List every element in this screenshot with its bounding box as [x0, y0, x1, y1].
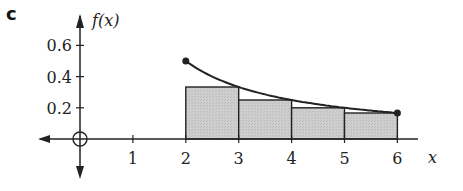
riemann-rectangle — [345, 113, 398, 139]
x-ticks: 123456 — [128, 135, 403, 168]
x-axis-arrow-left-icon — [38, 135, 50, 143]
part-label: c — [6, 3, 17, 24]
curve-endpoint-left — [182, 58, 189, 65]
y-axis-arrow-up-icon — [76, 14, 84, 28]
y-axis-arrow-down-icon — [76, 166, 84, 179]
riemann-rectangle — [186, 87, 239, 139]
chart-figure: c 123456 0.20.40.6 f(x) x — [0, 0, 463, 191]
y-tick-label: 0.6 — [47, 36, 72, 55]
x-axis-label: x — [428, 148, 437, 167]
riemann-rectangle — [292, 108, 345, 139]
x-tick-label: 5 — [339, 149, 349, 168]
x-tick-label: 2 — [181, 149, 191, 168]
x-tick-label: 4 — [287, 149, 297, 168]
riemann-rectangle — [239, 100, 292, 139]
curve-endpoint-right — [394, 109, 401, 116]
x-tick-label: 6 — [392, 149, 402, 168]
y-tick-label: 0.4 — [47, 68, 72, 87]
x-tick-label: 1 — [128, 149, 138, 168]
riemann-rectangles — [186, 87, 398, 139]
x-tick-label: 3 — [234, 149, 244, 168]
y-ticks: 0.20.40.6 — [47, 36, 84, 117]
y-axis-label: f(x) — [91, 11, 119, 30]
y-tick-label: 0.2 — [47, 99, 72, 118]
